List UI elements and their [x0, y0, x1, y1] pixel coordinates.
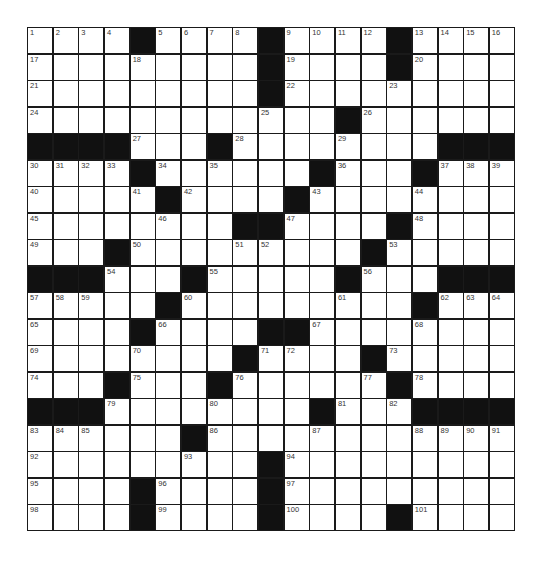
grid-cell[interactable]: 57: [28, 293, 52, 318]
grid-cell[interactable]: [105, 452, 129, 477]
grid-cell[interactable]: [439, 240, 463, 265]
grid-cell[interactable]: [387, 320, 411, 345]
grid-cell[interactable]: 34: [156, 161, 180, 186]
grid-cell[interactable]: [413, 346, 437, 371]
grid-cell[interactable]: [490, 55, 514, 80]
grid-cell[interactable]: [336, 373, 360, 398]
grid-cell[interactable]: [387, 134, 411, 159]
grid-cell[interactable]: [336, 187, 360, 212]
grid-cell[interactable]: [362, 505, 386, 530]
grid-cell[interactable]: 6: [182, 28, 206, 53]
grid-cell[interactable]: 48: [413, 214, 437, 239]
grid-cell[interactable]: [464, 187, 488, 212]
grid-cell[interactable]: [310, 108, 334, 133]
grid-cell[interactable]: [387, 479, 411, 504]
grid-cell[interactable]: 51: [233, 240, 257, 265]
grid-cell[interactable]: [310, 346, 334, 371]
grid-cell[interactable]: [105, 479, 129, 504]
grid-cell[interactable]: [79, 452, 103, 477]
grid-cell[interactable]: [259, 267, 283, 292]
grid-cell[interactable]: 101: [413, 505, 437, 530]
grid-cell[interactable]: 37: [439, 161, 463, 186]
grid-cell[interactable]: 72: [285, 346, 309, 371]
grid-cell[interactable]: 50: [131, 240, 155, 265]
grid-cell[interactable]: [464, 320, 488, 345]
grid-cell[interactable]: 54: [105, 267, 129, 292]
grid-cell[interactable]: [233, 108, 257, 133]
grid-cell[interactable]: 4: [105, 28, 129, 53]
grid-cell[interactable]: [285, 373, 309, 398]
grid-cell[interactable]: [439, 108, 463, 133]
grid-cell[interactable]: 20: [413, 55, 437, 80]
grid-cell[interactable]: [285, 161, 309, 186]
grid-cell[interactable]: [79, 346, 103, 371]
grid-cell[interactable]: 21: [28, 81, 52, 106]
grid-cell[interactable]: [259, 399, 283, 424]
grid-cell[interactable]: [208, 452, 232, 477]
grid-cell[interactable]: [105, 346, 129, 371]
grid-cell[interactable]: [490, 214, 514, 239]
grid-cell[interactable]: 59: [79, 293, 103, 318]
grid-cell[interactable]: [54, 81, 78, 106]
grid-cell[interactable]: [336, 426, 360, 451]
grid-cell[interactable]: [182, 479, 206, 504]
grid-cell[interactable]: [79, 240, 103, 265]
grid-cell[interactable]: [413, 81, 437, 106]
grid-cell[interactable]: 89: [439, 426, 463, 451]
grid-cell[interactable]: [439, 452, 463, 477]
grid-cell[interactable]: [54, 240, 78, 265]
grid-cell[interactable]: 98: [28, 505, 52, 530]
grid-cell[interactable]: [54, 346, 78, 371]
grid-cell[interactable]: [79, 505, 103, 530]
grid-cell[interactable]: [182, 108, 206, 133]
grid-cell[interactable]: [362, 399, 386, 424]
grid-cell[interactable]: 10: [310, 28, 334, 53]
grid-cell[interactable]: [156, 134, 180, 159]
grid-cell[interactable]: [464, 346, 488, 371]
grid-cell[interactable]: [131, 108, 155, 133]
grid-cell[interactable]: 42: [182, 187, 206, 212]
grid-cell[interactable]: 14: [439, 28, 463, 53]
grid-cell[interactable]: [208, 293, 232, 318]
grid-cell[interactable]: [310, 81, 334, 106]
grid-cell[interactable]: [131, 426, 155, 451]
grid-cell[interactable]: [464, 240, 488, 265]
grid-cell[interactable]: [233, 267, 257, 292]
grid-cell[interactable]: [208, 240, 232, 265]
grid-cell[interactable]: 45: [28, 214, 52, 239]
grid-cell[interactable]: [387, 452, 411, 477]
grid-cell[interactable]: [79, 320, 103, 345]
grid-cell[interactable]: [413, 267, 437, 292]
grid-cell[interactable]: [362, 81, 386, 106]
grid-cell[interactable]: [490, 505, 514, 530]
grid-cell[interactable]: [336, 320, 360, 345]
grid-cell[interactable]: 49: [28, 240, 52, 265]
grid-cell[interactable]: [439, 214, 463, 239]
grid-cell[interactable]: 36: [336, 161, 360, 186]
grid-cell[interactable]: [233, 161, 257, 186]
grid-cell[interactable]: [156, 373, 180, 398]
grid-cell[interactable]: [208, 108, 232, 133]
grid-cell[interactable]: [439, 81, 463, 106]
grid-cell[interactable]: [259, 426, 283, 451]
grid-cell[interactable]: 74: [28, 373, 52, 398]
grid-cell[interactable]: [208, 505, 232, 530]
grid-cell[interactable]: [105, 505, 129, 530]
grid-cell[interactable]: [310, 214, 334, 239]
grid-cell[interactable]: 30: [28, 161, 52, 186]
grid-cell[interactable]: [310, 452, 334, 477]
grid-cell[interactable]: [259, 187, 283, 212]
grid-cell[interactable]: 92: [28, 452, 52, 477]
grid-cell[interactable]: [259, 293, 283, 318]
grid-cell[interactable]: [310, 267, 334, 292]
grid-cell[interactable]: [387, 161, 411, 186]
grid-cell[interactable]: 28: [233, 134, 257, 159]
grid-cell[interactable]: 77: [362, 373, 386, 398]
grid-cell[interactable]: 46: [156, 214, 180, 239]
grid-cell[interactable]: [439, 505, 463, 530]
grid-cell[interactable]: [310, 55, 334, 80]
grid-cell[interactable]: 75: [131, 373, 155, 398]
grid-cell[interactable]: 64: [490, 293, 514, 318]
grid-cell[interactable]: [490, 320, 514, 345]
grid-cell[interactable]: [362, 214, 386, 239]
